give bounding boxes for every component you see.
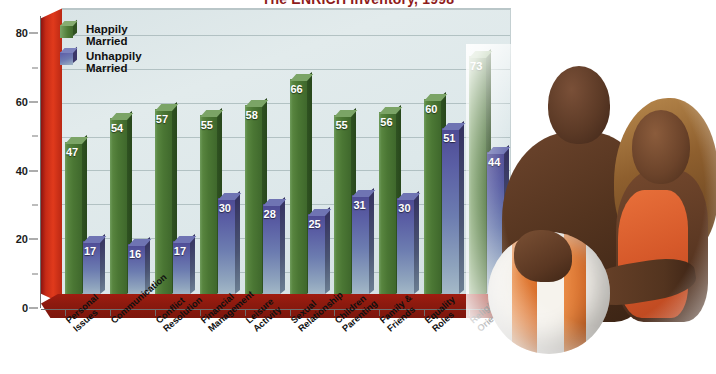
bar-value-label: 17 [174,245,198,257]
y-axis-label: 20 [16,233,28,245]
bar-value-label: 55 [201,119,225,131]
bar[interactable] [290,79,307,297]
bar[interactable] [334,115,351,297]
bar-face [65,142,82,297]
y-axis-label: 40 [16,165,28,177]
bar-group: 5530 [200,8,245,297]
bar-value-label: 58 [246,109,270,121]
bar-face [245,105,262,297]
y-tick-minor [32,136,38,137]
bar-value-label: 47 [66,146,90,158]
bar-value-label: 55 [335,119,359,131]
y-axis-label: 80 [16,27,28,39]
y-axis-label: 0 [22,302,28,314]
legend-label: Unhappily Married [86,50,142,74]
bar-side [190,234,195,294]
bar-side [100,234,105,294]
bar[interactable] [424,99,441,297]
x-axis: PersonalIssuesCommunicationConflictResol… [41,309,511,374]
bar[interactable] [155,109,172,297]
bar-group: 5717 [155,8,200,297]
y-tick-minor [32,204,38,205]
couple-photo [466,44,716,374]
bar-value-label: 56 [380,116,404,128]
bar-value-label: 25 [309,218,333,230]
bar-value-label: 60 [425,103,449,115]
bar-value-label: 17 [84,245,108,257]
bar[interactable] [200,115,217,297]
bar[interactable] [442,128,459,297]
bar-value-label: 66 [291,83,315,95]
bar-group: 6051 [424,8,469,297]
bar-value-label: 51 [443,132,467,144]
bar-face [424,99,441,297]
bar-value-label: 30 [219,202,243,214]
bar-value-label: 31 [353,199,377,211]
bar-value-label: 54 [111,122,135,134]
bar-value-label: 28 [264,208,288,220]
bar-value-label: 30 [398,202,422,214]
bar-face [110,118,127,297]
y-axis-label: 60 [16,96,28,108]
bar-face [442,128,459,297]
bar[interactable] [65,142,82,297]
bar-group: 5531 [334,8,379,297]
y-tick-major [29,308,38,309]
bar-face [334,115,351,297]
y-tick-major [29,239,38,240]
y-tick-major [29,101,38,102]
bar-face [290,79,307,297]
photo-edge-fade [466,44,716,374]
bar-value-label: 57 [156,113,180,125]
legend-swatch-blue-icon [60,52,73,65]
y-axis: 020406080 [0,16,42,308]
bar[interactable] [245,105,262,297]
y-tick-major [29,33,38,34]
bar-value-label: 16 [129,248,153,260]
bar-side [459,121,464,294]
bar-group: 6625 [290,8,335,297]
chart-page: The ENRICH Inventory, 1998 020406080 471… [0,0,716,374]
bar-face [379,112,396,297]
bar-face [155,109,172,297]
bar[interactable] [110,118,127,297]
bar[interactable] [379,112,396,297]
y-tick-minor [32,67,38,68]
bar-group: 5828 [245,8,290,297]
bar-group: 5630 [379,8,424,297]
y-tick-minor [32,273,38,274]
y-tick-major [29,170,38,171]
x-tick [290,309,291,316]
legend-swatch-green-icon [60,25,73,38]
bar-face [200,115,217,297]
legend-label: Happily Married [86,23,128,47]
chart-title: The ENRICH Inventory, 1998 [0,0,716,7]
